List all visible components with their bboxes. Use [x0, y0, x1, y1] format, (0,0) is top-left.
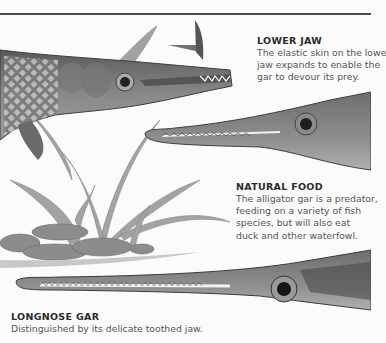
caption-line: feeding on a variety of fish — [236, 205, 378, 217]
caption-line: gar to devour its prey. — [257, 71, 386, 83]
caption-line: species, but will also eat — [236, 217, 378, 229]
caption-title: NATURAL FOOD — [236, 181, 378, 193]
small-fish-illustration — [168, 20, 203, 60]
caption-line: The elastic skin on the lowe — [257, 47, 386, 59]
caption-line: duck and other waterfowl. — [236, 230, 378, 242]
caption-title: LONGNOSE GAR — [11, 311, 203, 323]
caption-natural-food: NATURAL FOOD The alligator gar is a pred… — [236, 181, 378, 242]
caption-line: Distinguished by its delicate toothed ja… — [11, 323, 203, 335]
alligator-gar-snout-illustration — [145, 92, 371, 170]
caption-line: The alligator gar is a predator, — [236, 193, 378, 205]
caption-longnose-gar: LONGNOSE GAR Distinguished by its delica… — [11, 311, 203, 335]
caption-title: LOWER JAW — [257, 35, 386, 47]
caption-lower-jaw: LOWER JAW The elastic skin on the lowe j… — [257, 35, 386, 84]
caption-line: jaw expands to enable the — [257, 59, 386, 71]
